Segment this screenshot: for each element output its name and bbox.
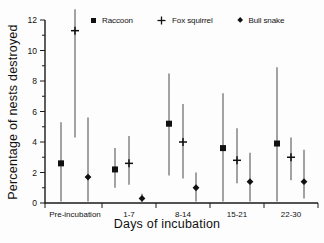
data-point-square	[166, 121, 172, 127]
legend-item-raccoon: Raccoon	[91, 16, 133, 25]
data-point-square	[274, 141, 280, 147]
diamond-marker-icon	[237, 17, 243, 23]
data-point-diamond	[193, 184, 200, 191]
nest-destruction-chart: 024681012Pre-incubation1-78-1415-2122-30…	[0, 0, 324, 243]
y-axis-title: Percentage of nests destroyed	[6, 24, 20, 199]
x-category-label: 15-21	[227, 210, 248, 219]
plot-area: 024681012Pre-incubation1-78-1415-2122-30	[0, 0, 324, 243]
data-point-diamond	[247, 178, 254, 185]
data-point-diamond	[301, 178, 308, 185]
y-tick-label: 2	[32, 168, 37, 178]
plus-marker-icon	[157, 16, 166, 25]
square-marker-icon	[91, 18, 96, 23]
data-point-square	[58, 160, 64, 166]
x-category-label: 22-30	[281, 210, 302, 219]
legend-label-raccoon: Raccoon	[102, 16, 133, 25]
data-point-diamond	[85, 174, 92, 181]
legend-item-bull-snake: Bull snake	[238, 16, 284, 25]
y-tick-label: 8	[32, 76, 37, 86]
legend-item-fox-squirrel: Fox squirrel	[157, 16, 213, 25]
data-point-square	[112, 166, 118, 172]
y-tick-label: 10	[28, 46, 38, 56]
legend-label-bull-snake: Bull snake	[248, 16, 284, 25]
y-tick-label: 6	[32, 107, 37, 117]
y-tick-label: 12	[28, 15, 38, 25]
legend-label-fox-squirrel: Fox squirrel	[172, 16, 213, 25]
data-point-diamond	[139, 195, 146, 202]
x-category-label: Pre-incubation	[49, 210, 101, 219]
y-tick-label: 0	[32, 198, 37, 208]
x-axis-title: Days of incubation	[114, 217, 220, 231]
data-point-square	[220, 145, 226, 151]
y-tick-label: 4	[32, 137, 37, 147]
